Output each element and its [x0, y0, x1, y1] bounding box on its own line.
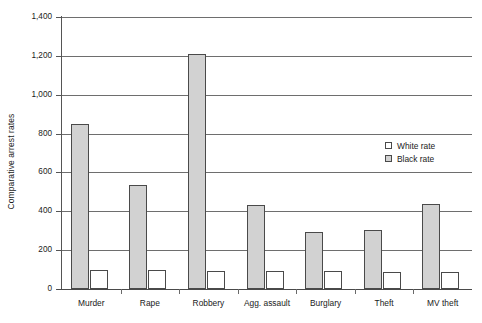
y-axis-tick-label: 1,200 [8, 51, 52, 60]
bar-black-rate [305, 232, 323, 289]
gridline [62, 95, 472, 96]
chart-legend: White rateBlack rate [385, 139, 435, 165]
legend-swatch-icon [385, 142, 392, 149]
legend-swatch-icon [385, 155, 392, 162]
gridline [62, 250, 472, 251]
x-axis-tick [296, 289, 297, 294]
bar-white-rate [207, 271, 225, 289]
legend-item: Black rate [385, 152, 435, 165]
x-axis-category-label: MV theft [427, 298, 458, 308]
x-axis-category-label: Murder [78, 298, 105, 308]
x-axis-tick [413, 289, 414, 294]
x-axis-category-label: Burglary [310, 298, 341, 308]
gridline [62, 211, 472, 212]
y-axis-tick-label: 1,000 [8, 90, 52, 99]
gridline [62, 172, 472, 173]
bar-black-rate [422, 204, 440, 289]
legend-item: White rate [385, 139, 435, 152]
bar-white-rate [324, 271, 342, 289]
y-axis-tick-label: 400 [8, 206, 52, 215]
bar-white-rate [441, 272, 459, 289]
bar-black-rate [71, 124, 89, 289]
bar-black-rate [129, 185, 147, 289]
y-axis-tick-label: 0 [8, 284, 52, 293]
legend-item-label: White rate [397, 141, 435, 151]
bar-black-rate [188, 54, 206, 289]
x-axis-category-label: Agg. assault [244, 298, 290, 308]
x-axis-tick [121, 289, 122, 294]
x-axis-category-label: Theft [375, 298, 394, 308]
bar-black-rate [364, 230, 382, 289]
gridline [62, 17, 472, 18]
legend-item-label: Black rate [397, 154, 434, 164]
y-axis-tick-label: 1,400 [8, 12, 52, 21]
x-axis-line [57, 289, 472, 290]
bar-white-rate [90, 270, 108, 289]
y-axis-tick-label: 600 [8, 167, 52, 176]
y-axis-title: Comparative arrest rates [0, 0, 22, 323]
x-axis-category-label: Rape [140, 298, 160, 308]
bar-white-rate [383, 272, 401, 289]
bar-white-rate [148, 270, 166, 289]
comparative-arrest-rates-bar-chart: Comparative arrest rates 02004006008001,… [0, 0, 482, 323]
x-axis-tick [179, 289, 180, 294]
y-axis-tick-label: 200 [8, 245, 52, 254]
bar-black-rate [247, 205, 265, 289]
x-axis-category-label: Robbery [193, 298, 225, 308]
y-axis-tick-label: 800 [8, 129, 52, 138]
x-axis-tick [355, 289, 356, 294]
gridline [62, 134, 472, 135]
gridline [62, 56, 472, 57]
x-axis-tick [238, 289, 239, 294]
bar-white-rate [266, 271, 284, 289]
